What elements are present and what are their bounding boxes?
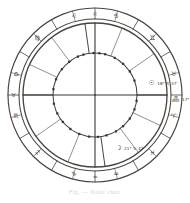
planet-tick-mark <box>53 103 55 105</box>
imum_coeli-glyph: ♒ <box>92 174 97 180</box>
zodiac-division-tick <box>133 161 139 171</box>
planet-tick-mark <box>77 56 79 58</box>
planet-tick-mark <box>135 100 137 102</box>
zodiac-glyph-leo: ♌ <box>71 12 77 19</box>
zodiac-glyph-virgo: ♍ <box>35 34 41 42</box>
house-cusp-line-9 <box>52 37 70 61</box>
ascendant-degree-text: 17° ♏ 37' <box>182 97 190 102</box>
planet-glyph-moon: ☽ <box>115 144 121 152</box>
planet-tick-mark <box>129 70 131 72</box>
planet-tick-mark <box>92 52 94 54</box>
zodiac-division-tick <box>20 52 30 58</box>
planet-tick-mark <box>55 78 57 80</box>
planet-degree-text-moon: 21° ♑ 42' <box>124 146 144 151</box>
planet-tick-mark <box>97 136 99 138</box>
zodiac-glyph-sagittarius: ♐ <box>35 149 41 156</box>
planet-glyph-sun: ☉ <box>149 79 155 87</box>
house-cusp-line-11 <box>111 28 122 56</box>
house-cusp-line-2 <box>133 113 160 126</box>
planet-tick-mark <box>69 128 71 130</box>
house-cusp-line-8 <box>30 65 57 78</box>
zodiac-division-tick <box>52 161 58 171</box>
planet-tick-mark <box>56 112 58 114</box>
planet-tick-mark <box>105 134 107 136</box>
zodiac-division-tick <box>20 133 30 139</box>
house-cusp-line-4 <box>101 137 105 167</box>
planet-degree-text-sun: 18° ♏ 37' <box>157 81 177 86</box>
chart-wheel-svg: ♎♍♌♋♊♉♈♓♒♑♐♏ ♏♉♌♒Asc17° ♏ 37' ☉18° ♏ 37'… <box>0 0 190 203</box>
zodiac-division-tick <box>161 133 171 139</box>
planet-tick-mark <box>122 63 124 65</box>
planet-tick-mark <box>104 53 106 55</box>
planet-tick-mark <box>88 135 90 137</box>
planet-tick-mark <box>78 133 80 135</box>
planet-tick-mark <box>122 125 124 127</box>
midheaven-glyph: ♌ <box>92 11 97 17</box>
zodiac-glyph-scorpio: ♏ <box>13 112 19 119</box>
ascendant-label: Asc <box>172 98 180 103</box>
planet-tick-mark <box>82 54 84 56</box>
house-cusp-line-6 <box>36 119 61 136</box>
zodiac-glyph-aries: ♈ <box>171 112 177 119</box>
house-cusp-line-5 <box>68 134 79 162</box>
planet-tick-mark <box>98 52 100 54</box>
planet-tick-mark <box>133 80 135 82</box>
planet-tick-mark <box>61 68 63 70</box>
zodiac-glyph-cancer: ♋ <box>113 12 119 19</box>
planet-tick-mark <box>68 61 70 63</box>
planet-tick-mark <box>129 117 131 119</box>
zodiac-division-tick <box>161 52 171 58</box>
zodiac-glyph-taurus: ♉ <box>171 70 177 77</box>
zodiac-glyph-pisces: ♓ <box>150 149 156 156</box>
natal-chart-figure: ♎♍♌♋♊♉♈♓♒♑♐♏ ♏♉♌♒Asc17° ♏ 37' ☉18° ♏ 37'… <box>0 0 190 203</box>
house-cusp-line-12 <box>129 54 154 71</box>
descendant-glyph: ♉ <box>11 92 16 98</box>
planet-tick-mark <box>52 88 54 90</box>
zodiac-glyph-aquarius: ♒ <box>113 170 119 177</box>
planet-tick-mark <box>133 108 135 110</box>
zodiac-glyph-capricorn: ♑ <box>71 170 77 177</box>
planet-tick-mark <box>115 130 117 132</box>
zodiac-glyph-libra: ♎ <box>13 70 19 77</box>
planet-tick-mark <box>114 57 116 59</box>
zodiac-division-tick <box>52 20 58 30</box>
zodiac-division-tick <box>133 20 139 30</box>
zodiac-glyph-gemini: ♊ <box>150 34 156 41</box>
house-cusp-line-10 <box>85 24 89 54</box>
figure-caption: Fig. — Natal chart <box>0 189 190 195</box>
planet-tick-mark <box>62 121 64 123</box>
